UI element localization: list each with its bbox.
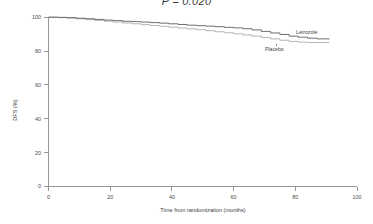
y-tick-label-20: 20 — [35, 150, 41, 156]
kaplan-meier-figure: P = 0.020 0 20 40 60 80 100 — [0, 0, 373, 224]
x-tick-label-20: 20 — [107, 194, 113, 200]
y-tick-label-60: 60 — [35, 82, 41, 88]
x-tick-label-0: 0 — [47, 194, 50, 200]
x-tick-label-80: 80 — [292, 194, 298, 200]
survival-curve-letrozole — [49, 17, 330, 39]
series-label-letrozole: Letrozole — [296, 29, 317, 35]
x-axis-ticks: 0 20 40 60 80 100 — [47, 187, 362, 200]
y-tick-label-80: 80 — [35, 48, 41, 54]
x-tick-label-40: 40 — [169, 194, 175, 200]
x-tick-label-60: 60 — [231, 194, 237, 200]
x-tick-label-100: 100 — [353, 194, 362, 200]
y-axis-title: DFS (%) — [12, 99, 18, 121]
y-tick-label-40: 40 — [35, 116, 41, 122]
series-label-placebo: Placebo — [265, 46, 284, 52]
plot-canvas: 0 20 40 60 80 100 0 20 40 60 80 100 Time… — [0, 0, 373, 224]
y-tick-label-0: 0 — [38, 183, 41, 189]
survival-curve-placebo — [49, 17, 330, 42]
y-axis-ticks: 0 20 40 60 80 100 — [32, 14, 49, 189]
x-axis-title: Time from randomization (months) — [160, 207, 245, 213]
y-tick-label-100: 100 — [32, 14, 41, 20]
